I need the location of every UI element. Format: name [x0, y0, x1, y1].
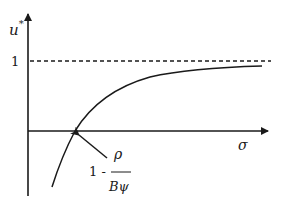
intercept-annotation: 1 - ρ Bψ	[89, 146, 131, 194]
intercept-arrow	[79, 135, 107, 158]
function-curve	[52, 66, 262, 187]
annotation-denominator: Bψ	[108, 179, 130, 194]
asymptote-label: 1	[11, 54, 19, 69]
annotation-numerator: ρ	[113, 146, 123, 162]
y-axis-label: u*	[9, 18, 24, 39]
diagram: u* 1 σ 1 - ρ Bψ	[0, 0, 281, 206]
x-axis-label: σ	[238, 137, 248, 153]
annotation-prefix: 1 -	[89, 164, 106, 179]
